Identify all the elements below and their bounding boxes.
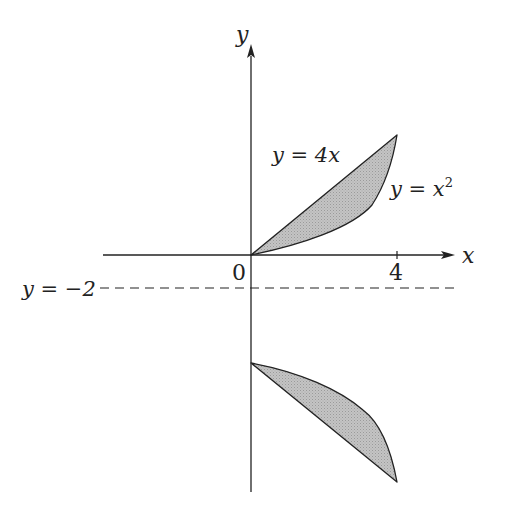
parabola-label-text: y = x [389,177,445,201]
parabola-label: y = x2 [389,175,453,201]
diagram-canvas: y x 0 4 y = 4x y = x2 y = −2 [0,0,506,515]
line-label: y = 4x [271,143,340,167]
x-axis [103,251,455,259]
y-axis [247,44,255,492]
x-axis-label: x [462,243,475,268]
y-axis-label: y [235,22,249,47]
origin-label: 0 [232,260,246,285]
rotation-axis-label: y = −2 [21,277,96,301]
x-tick-label-4: 4 [389,260,403,285]
reflected-region [251,363,397,482]
parabola-exponent: 2 [445,175,453,190]
